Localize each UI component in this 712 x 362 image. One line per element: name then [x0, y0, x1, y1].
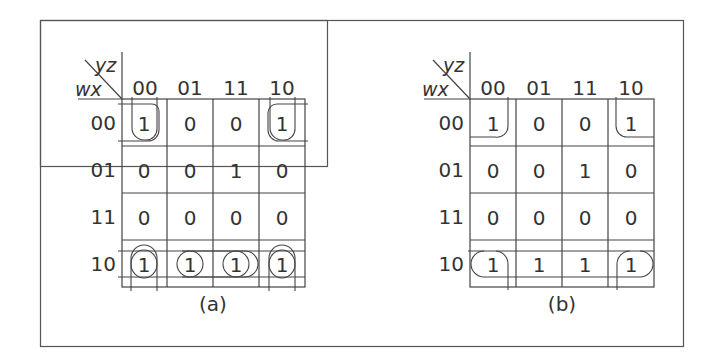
caption: (a) [199, 292, 227, 316]
cell: 1 [184, 253, 197, 277]
cell: 0 [579, 206, 592, 230]
cell: 1 [533, 253, 546, 277]
cell: 0 [276, 159, 289, 183]
cell: 0 [625, 159, 638, 183]
cell: 0 [184, 159, 197, 183]
row-label: 10 [439, 252, 464, 276]
kmap-a: yz wx 00 01 11 10 00 01 11 10 1 0 0 1 0 … [75, 52, 308, 316]
cell: 1 [230, 159, 243, 183]
cell: 1 [625, 112, 638, 136]
row-label: 01 [91, 158, 116, 182]
cell: 0 [184, 112, 197, 136]
col-var-label: yz [442, 54, 465, 76]
col-label: 00 [132, 76, 157, 100]
cell: 1 [276, 253, 289, 277]
kmap-b: yz wx 00 01 11 10 00 01 11 10 1 0 0 1 0 … [422, 52, 654, 316]
cell: 0 [138, 206, 151, 230]
cell: 0 [533, 159, 546, 183]
col-label: 01 [177, 76, 202, 100]
cell: 1 [487, 253, 500, 277]
cell: 1 [138, 253, 151, 277]
row-label: 00 [439, 111, 464, 135]
row-var-label: wx [422, 78, 450, 100]
cell: 0 [579, 112, 592, 136]
cell: 1 [230, 253, 243, 277]
cell: 1 [276, 112, 289, 136]
row-label: 11 [91, 205, 116, 229]
cell: 0 [276, 206, 289, 230]
row-label: 11 [439, 205, 464, 229]
col-label: 00 [480, 76, 505, 100]
cell: 1 [579, 159, 592, 183]
figure-border [41, 21, 684, 347]
cell: 0 [625, 206, 638, 230]
cell: 0 [184, 206, 197, 230]
col-label: 10 [269, 76, 294, 100]
col-label: 11 [572, 76, 597, 100]
kmap-figure: yz wx 00 01 11 10 00 01 11 10 1 0 0 1 0 … [0, 0, 712, 362]
row-label: 10 [91, 252, 116, 276]
col-label: 10 [618, 76, 643, 100]
cell: 0 [487, 159, 500, 183]
cell: 1 [138, 112, 151, 136]
cell: 0 [487, 206, 500, 230]
cell: 0 [230, 206, 243, 230]
row-label: 00 [91, 111, 116, 135]
cell: 0 [230, 112, 243, 136]
cell: 1 [487, 112, 500, 136]
cell: 1 [579, 253, 592, 277]
cell: 1 [625, 253, 638, 277]
cell: 0 [533, 112, 546, 136]
col-var-label: yz [94, 54, 117, 76]
caption: (b) [548, 292, 576, 316]
row-var-label: wx [75, 78, 103, 100]
col-label: 11 [223, 76, 248, 100]
col-label: 01 [526, 76, 551, 100]
row-label: 01 [439, 158, 464, 182]
cell: 0 [138, 159, 151, 183]
cell: 0 [533, 206, 546, 230]
